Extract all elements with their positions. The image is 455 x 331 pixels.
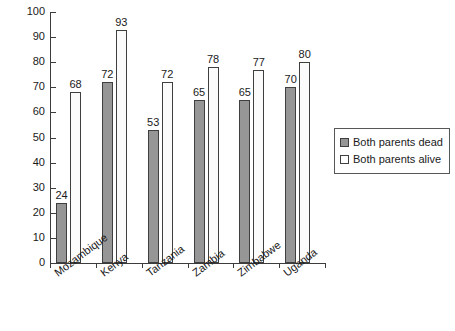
bar-value-label: 53 xyxy=(147,116,159,129)
bar: 65 xyxy=(194,100,205,263)
x-axis-tick-mark xyxy=(325,263,326,268)
legend-swatch-icon xyxy=(340,155,349,164)
bar-value-label: 93 xyxy=(115,16,127,29)
bar-value-label: 65 xyxy=(193,86,205,99)
legend-item: Both parents alive xyxy=(340,151,443,168)
y-axis-tick-label: 30 xyxy=(33,181,45,194)
y-axis-tick-mark xyxy=(51,263,56,264)
y-axis-tick-label: 70 xyxy=(33,80,45,93)
bar: 68 xyxy=(70,92,81,263)
bar: 70 xyxy=(285,87,296,263)
bar-group: 7080 xyxy=(285,12,310,263)
bar-group: 5372 xyxy=(148,12,173,263)
bar: 72 xyxy=(162,82,173,263)
legend-item-label: Both parents alive xyxy=(353,153,441,166)
bar-value-label: 24 xyxy=(55,189,67,202)
bar: 24 xyxy=(56,203,67,263)
legend-swatch-icon xyxy=(340,138,349,147)
bar-value-label: 72 xyxy=(161,68,173,81)
bar-chart: 0102030405060708090100 24687293537265786… xyxy=(0,0,455,331)
y-axis-tick-label: 10 xyxy=(33,231,45,244)
y-axis-tick-label: 40 xyxy=(33,156,45,169)
bar-value-label: 70 xyxy=(285,73,297,86)
y-axis-tick-label: 80 xyxy=(33,55,45,68)
bar-value-label: 68 xyxy=(69,78,81,91)
bar-value-label: 78 xyxy=(207,53,219,66)
bar-value-label: 77 xyxy=(253,56,265,69)
y-axis-tick-label: 50 xyxy=(33,131,45,144)
y-axis-tick-label: 100 xyxy=(27,5,45,18)
x-axis-tick-mark xyxy=(142,263,143,268)
bar-value-label: 80 xyxy=(299,48,311,61)
legend-item: Both parents dead xyxy=(340,134,443,151)
y-axis-tick-label: 20 xyxy=(33,206,45,219)
x-axis-tick-mark xyxy=(188,263,189,268)
plot-area: 0102030405060708090100 24687293537265786… xyxy=(50,12,325,263)
legend-item-label: Both parents dead xyxy=(353,136,443,149)
x-axis-tick-mark xyxy=(96,263,97,268)
y-axis-tick-label: 90 xyxy=(33,30,45,43)
bar: 93 xyxy=(116,30,127,263)
bar: 80 xyxy=(299,62,310,263)
x-axis-tick-mark xyxy=(50,263,51,268)
bar: 78 xyxy=(208,67,219,263)
x-axis-tick-mark xyxy=(233,263,234,268)
bar: 65 xyxy=(239,100,250,263)
y-axis-tick-label: 0 xyxy=(39,256,45,269)
bar: 53 xyxy=(148,130,159,263)
bar: 77 xyxy=(253,70,264,263)
bar-value-label: 72 xyxy=(101,68,113,81)
chart-legend: Both parents dead Both parents alive xyxy=(334,128,450,174)
x-axis-tick-mark xyxy=(279,263,280,268)
bar-value-label: 65 xyxy=(239,86,251,99)
y-axis-tick-label: 60 xyxy=(33,105,45,118)
bar-group: 7293 xyxy=(102,12,127,263)
bar-group: 6577 xyxy=(239,12,264,263)
bar-group: 2468 xyxy=(56,12,81,263)
bar-group: 6578 xyxy=(194,12,219,263)
